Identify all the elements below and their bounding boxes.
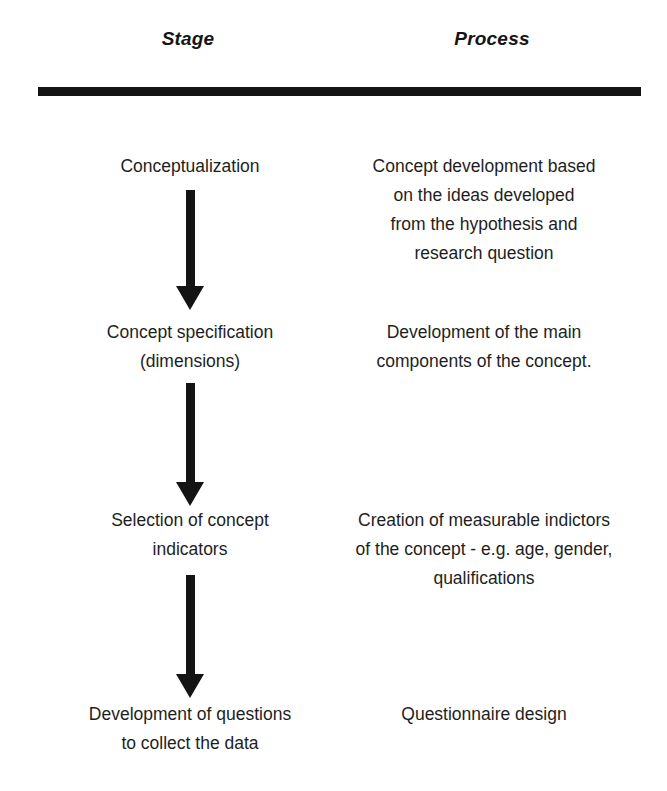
down-arrow-icon xyxy=(170,190,210,312)
header-divider-rule xyxy=(38,87,641,96)
concept-measurement-flow-diagram: Stage Process Conceptualization Concept … xyxy=(0,0,667,791)
process-line: components of the concept. xyxy=(344,347,624,376)
stage-line: (dimensions) xyxy=(55,347,325,376)
process-cell-conceptualization: Concept development based on the ideas d… xyxy=(344,152,624,268)
arrow-head xyxy=(176,674,204,698)
process-line: Questionnaire design xyxy=(344,700,624,729)
column-header-process: Process xyxy=(412,28,572,50)
stage-line: indicators xyxy=(55,535,325,564)
process-line: from the hypothesis and xyxy=(344,210,624,239)
arrow-shaft xyxy=(186,383,195,486)
arrow-head xyxy=(176,482,204,506)
process-cell-question-development: Questionnaire design xyxy=(344,700,624,729)
process-line: Concept development based xyxy=(344,152,624,181)
down-arrow-icon xyxy=(170,575,210,701)
stage-cell-concept-specification: Concept specification (dimensions) xyxy=(55,318,325,376)
arrow-shaft xyxy=(186,575,195,678)
process-line: Development of the main xyxy=(344,318,624,347)
process-line: Creation of measurable indictors xyxy=(344,506,624,535)
process-cell-concept-specification: Development of the main components of th… xyxy=(344,318,624,376)
column-header-stage: Stage xyxy=(108,28,268,50)
process-line: qualifications xyxy=(344,564,624,593)
stage-line: Concept specification xyxy=(55,318,325,347)
stage-line: to collect the data xyxy=(55,729,325,758)
process-line: research question xyxy=(344,239,624,268)
process-line: of the concept - e.g. age, gender, xyxy=(344,535,624,564)
stage-line: Development of questions xyxy=(55,700,325,729)
down-arrow-icon xyxy=(170,383,210,509)
arrow-head xyxy=(176,286,204,310)
process-line: on the ideas developed xyxy=(344,181,624,210)
stage-line: Selection of concept xyxy=(55,506,325,535)
stage-cell-conceptualization: Conceptualization xyxy=(55,152,325,181)
stage-cell-question-development: Development of questions to collect the … xyxy=(55,700,325,758)
arrow-shaft xyxy=(186,190,195,290)
stage-line: Conceptualization xyxy=(55,152,325,181)
stage-cell-concept-indicators: Selection of concept indicators xyxy=(55,506,325,564)
process-cell-concept-indicators: Creation of measurable indictors of the … xyxy=(344,506,624,593)
